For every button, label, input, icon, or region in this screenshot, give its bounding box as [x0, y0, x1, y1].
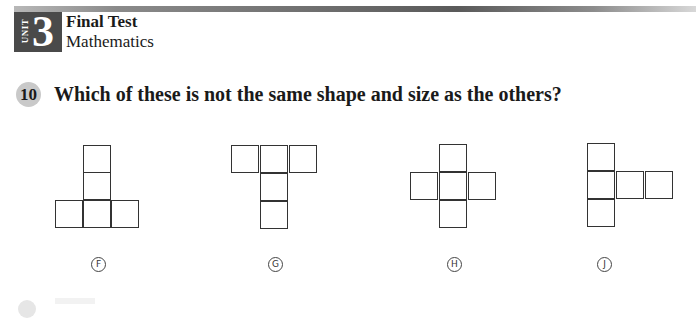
- square: [260, 173, 288, 201]
- next-question-bleed: [55, 298, 95, 304]
- square: [616, 171, 644, 199]
- square: [289, 145, 317, 173]
- square: [439, 172, 467, 200]
- square: [260, 145, 288, 173]
- square: [587, 171, 615, 199]
- square: [111, 200, 139, 228]
- square: [410, 172, 438, 200]
- next-question-bullet: [18, 300, 36, 318]
- page-title: Final Test: [66, 12, 154, 32]
- answer-bubble-j[interactable]: J: [597, 257, 612, 272]
- square: [645, 171, 673, 199]
- answer-bubble-f[interactable]: F: [91, 257, 106, 272]
- unit-badge: UNIT 3: [14, 12, 62, 52]
- question-number: 10: [16, 82, 41, 107]
- square: [260, 201, 288, 229]
- square: [55, 200, 83, 228]
- square: [587, 199, 615, 227]
- square: [468, 172, 496, 200]
- answer-bubble-g[interactable]: G: [268, 257, 283, 272]
- square: [83, 172, 111, 200]
- square: [587, 143, 615, 171]
- square: [231, 145, 259, 173]
- square: [83, 145, 111, 173]
- unit-number: 3: [32, 12, 54, 52]
- square: [439, 144, 467, 172]
- square: [83, 200, 111, 228]
- subject-title: Mathematics: [66, 32, 154, 51]
- square: [439, 200, 467, 228]
- unit-label: UNIT: [20, 16, 30, 46]
- answer-bubble-h[interactable]: H: [447, 257, 462, 272]
- question-text: Which of these is not the same shape and…: [54, 82, 562, 107]
- title-block: Final Test Mathematics: [66, 12, 154, 51]
